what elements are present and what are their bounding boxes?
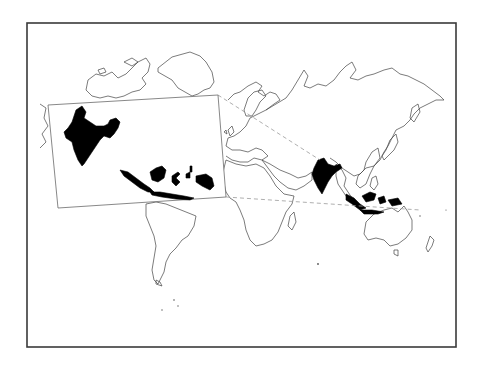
island-dot (445, 209, 446, 210)
world-map (0, 0, 480, 368)
island-dot (177, 305, 178, 306)
island-dot (419, 215, 420, 216)
inset-panel (48, 95, 226, 208)
island-dot (173, 299, 175, 301)
island-dot (161, 309, 162, 310)
island-dot (317, 263, 319, 265)
